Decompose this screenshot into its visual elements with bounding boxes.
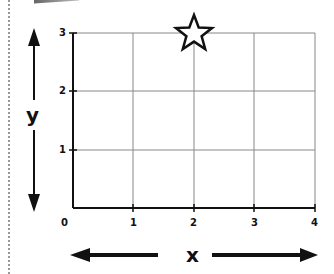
x-tick-3: 3 xyxy=(251,217,258,228)
x-tick-0: 0 xyxy=(61,217,68,228)
y-tick-1: 1 xyxy=(59,144,66,155)
y-tick-2: 2 xyxy=(59,85,66,96)
coordinate-grid xyxy=(0,0,334,274)
x-tick-4: 4 xyxy=(311,217,318,228)
y-axis-label: y xyxy=(26,103,39,127)
x-tick-2: 2 xyxy=(190,217,197,228)
x-tick-1: 1 xyxy=(130,217,137,228)
y-tick-3: 3 xyxy=(59,27,66,38)
x-axis-label: x xyxy=(186,243,199,267)
